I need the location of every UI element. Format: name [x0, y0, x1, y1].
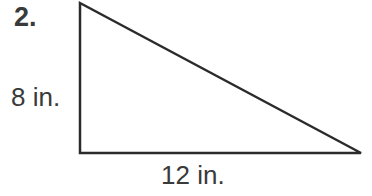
- height-label: 8 in.: [11, 82, 60, 113]
- base-label: 12 in.: [161, 160, 225, 191]
